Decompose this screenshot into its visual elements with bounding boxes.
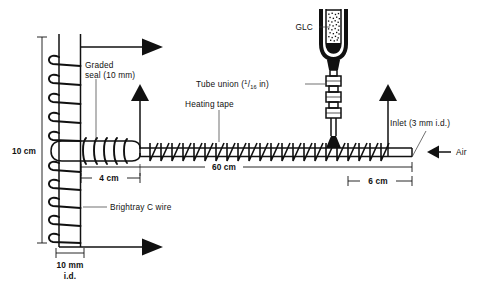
dimension-label-60cm: 60 cm [212, 162, 236, 172]
brightray-wire-coil-vertical [49, 56, 81, 243]
flow-arrow-top-right [81, 39, 164, 56]
tube-union-fittings [326, 60, 341, 118]
heating-tape-coil [150, 143, 389, 161]
label-graded-seal-line1: Graded [85, 60, 114, 70]
label-tube-union: Tube union (1/16 in) [196, 78, 269, 90]
label-glc: GLC [295, 22, 313, 32]
label-graded-seal-line2: seal (10 mm) [85, 70, 135, 80]
dimension-10mm-id [56, 248, 84, 258]
dimension-label-10mm: 10 mm [57, 260, 84, 270]
dimension-60cm [81, 162, 412, 172]
dimension-label-6cm: 6 cm [368, 176, 387, 186]
label-tube-union-prefix: Tube union ( [196, 79, 244, 89]
label-air: Air [456, 147, 467, 157]
tee-junction-funnel [326, 118, 341, 148]
air-inlet-arrow-left [427, 146, 451, 159]
apparatus-diagram: GLC Graded seal (10 mm) Tube union (1/16… [0, 0, 491, 294]
svg-text:Tube union (1/16 in): Tube union (1/16 in) [196, 78, 269, 90]
label-tube-union-suffix: in) [257, 79, 269, 89]
dimension-10cm-height [37, 37, 47, 243]
label-inlet: Inlet (3 mm i.d.) [390, 118, 450, 128]
bulb-coil [83, 138, 127, 164]
glc-column [319, 9, 348, 61]
apparatus-figure: GLC Graded seal (10 mm) Tube union (1/16… [0, 0, 491, 294]
label-brightray-wire: Brightray C wire [110, 202, 172, 212]
dimension-label-4cm: 4 cm [99, 173, 118, 183]
dimension-label-10cm: 10 cm [12, 146, 36, 156]
label-heating-tape: Heating tape [185, 99, 234, 109]
flow-arrow-up-left [131, 84, 149, 156]
dimension-label-id: i.d. [64, 271, 76, 281]
